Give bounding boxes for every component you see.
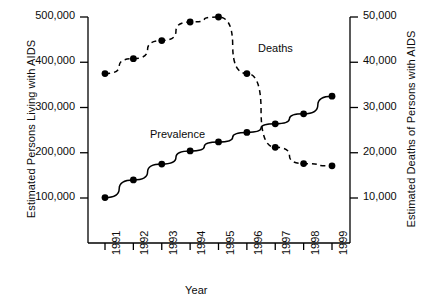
data-point <box>272 120 279 127</box>
aids-prevalence-deaths-chart: Estimated Persons Living with AIDS Estim… <box>0 0 440 304</box>
data-point <box>272 144 279 151</box>
data-point <box>158 161 165 168</box>
x-tick-label: 1993 <box>167 231 179 255</box>
right-tick-label: 40,000 <box>363 54 433 66</box>
data-point <box>300 160 307 167</box>
series-markers <box>102 14 336 201</box>
x-axis-title: Year <box>185 284 208 296</box>
data-point <box>300 110 307 117</box>
left-tick-label: 400,000 <box>5 54 75 66</box>
left-tick-label: 100,000 <box>5 190 75 202</box>
left-tick-label: 200,000 <box>5 145 75 157</box>
left-axis-ticks <box>80 17 88 198</box>
data-point <box>243 70 250 77</box>
axis-lines <box>88 17 350 243</box>
x-tick-label: 1998 <box>309 231 321 255</box>
x-tick-label: 1994 <box>195 231 207 255</box>
series-lines <box>105 17 332 198</box>
right-axis-ticks <box>350 17 358 198</box>
series-line-prevalence <box>105 96 332 197</box>
series-annotation-prevalence: Prevalence <box>150 128 205 140</box>
data-point <box>215 14 222 21</box>
data-point <box>329 162 336 169</box>
x-tick-label: 1991 <box>110 231 122 255</box>
right-axis-title: Estimated Deaths of Persons with AIDS <box>405 14 417 244</box>
x-tick-label: 1995 <box>224 231 236 255</box>
data-point <box>243 129 250 136</box>
series-annotation-deaths: Deaths <box>258 42 293 54</box>
data-point <box>329 93 336 100</box>
data-point <box>215 138 222 145</box>
data-point <box>130 55 137 62</box>
data-point <box>187 148 194 155</box>
x-tick-label: 1997 <box>280 231 292 255</box>
data-point <box>102 70 109 77</box>
x-tick-label: 1999 <box>337 231 349 255</box>
left-axis-title: Estimated Persons Living with AIDS <box>25 14 37 244</box>
data-point <box>187 19 194 26</box>
right-tick-label: 30,000 <box>363 100 433 112</box>
right-tick-label: 10,000 <box>363 190 433 202</box>
right-tick-label: 20,000 <box>363 145 433 157</box>
data-point <box>158 37 165 44</box>
x-tick-label: 1992 <box>138 231 150 255</box>
x-tick-label: 1996 <box>252 231 264 255</box>
left-tick-label: 500,000 <box>5 9 75 21</box>
left-tick-label: 300,000 <box>5 100 75 112</box>
data-point <box>130 177 137 184</box>
data-point <box>102 194 109 201</box>
right-tick-label: 50,000 <box>363 9 433 21</box>
